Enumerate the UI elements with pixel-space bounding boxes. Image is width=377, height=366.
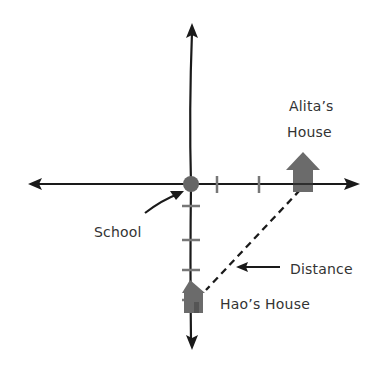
alita-house-label-line1: Alita’s bbox=[289, 98, 334, 115]
alita-house-icon bbox=[286, 152, 320, 192]
school-label: School bbox=[94, 224, 142, 241]
school-pointer-arrow bbox=[145, 191, 184, 213]
distance-dashed-line bbox=[206, 190, 300, 290]
hao-house-icon bbox=[182, 280, 205, 313]
coordinate-diagram bbox=[0, 0, 377, 366]
distance-pointer-arrow bbox=[236, 262, 280, 272]
hao-house-label: Hao’s House bbox=[220, 296, 310, 313]
alita-house-label-line2: House bbox=[287, 124, 332, 141]
distance-label: Distance bbox=[290, 261, 353, 278]
school-marker bbox=[183, 176, 199, 192]
